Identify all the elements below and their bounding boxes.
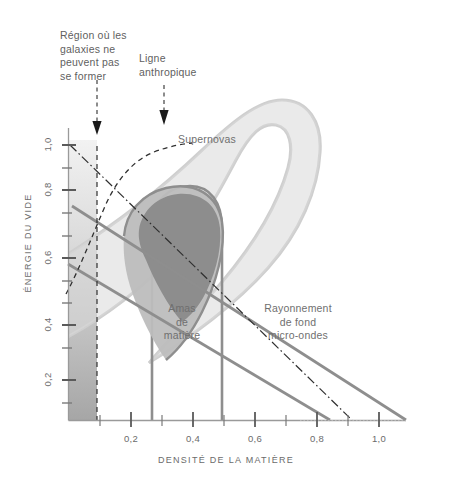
x-tick-label-06: 0,6 bbox=[242, 433, 268, 444]
arrow-region-head bbox=[92, 121, 101, 135]
arrow-ligne-head bbox=[159, 110, 168, 125]
y-tick-label-04: 0,4 bbox=[42, 312, 53, 338]
x-tick-label-02: 0,2 bbox=[118, 433, 144, 444]
y-tick-label-06: 0,6 bbox=[42, 245, 53, 271]
constraint-line-upper bbox=[72, 206, 406, 420]
y-axis-title: ÉNERGIE DU VIDE bbox=[23, 163, 33, 323]
annotation-anthropic-line: Ligne anthropique bbox=[139, 52, 211, 79]
annotation-arrows bbox=[92, 80, 168, 135]
y-tick-label-1: 1,0 bbox=[42, 132, 53, 158]
y-tick-label-02: 0,2 bbox=[42, 367, 53, 393]
x-tick-label-04: 0,4 bbox=[180, 433, 206, 444]
label-supernovas: Supernovas bbox=[178, 133, 236, 147]
x-tick-label-08: 0,8 bbox=[304, 433, 330, 444]
x-axis-title: DENSITÉ DE LA MATIÈRE bbox=[0, 455, 452, 465]
x-major-ticks bbox=[131, 412, 379, 427]
y-tick-label-08: 0,8 bbox=[42, 177, 53, 203]
figure-panel: Région où les galaxies ne peuvent pas se… bbox=[0, 0, 452, 485]
x-tick-label-10: 1,0 bbox=[366, 433, 392, 444]
label-cmb: Rayonnement de fond micro-ondes bbox=[246, 302, 350, 343]
label-matter-clusters: Amas de matière bbox=[152, 302, 212, 343]
